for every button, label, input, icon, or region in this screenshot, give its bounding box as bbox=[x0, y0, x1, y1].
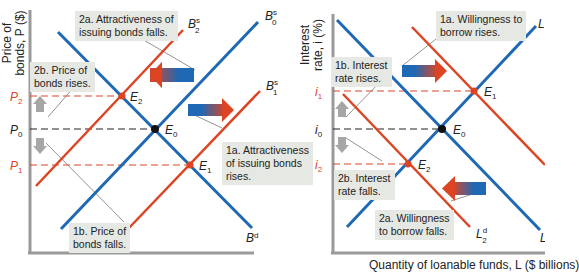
b1s-label: Bs1 bbox=[266, 78, 278, 97]
e0-label: E0 bbox=[165, 123, 178, 139]
l2d-demand-curve bbox=[343, 94, 470, 227]
callout-r1a-willingness-rises: 1a. Willingness to borrow rises. bbox=[436, 11, 526, 41]
right-y-axis-title: Interest rate, i (%) bbox=[299, 10, 325, 80]
price-up-arrow bbox=[33, 96, 47, 112]
p0-label: P0 bbox=[10, 123, 23, 139]
ls-label: L bbox=[538, 17, 545, 31]
callout-1a-attractiveness-rises: 1a. Attractiveness of issuing bonds rise… bbox=[222, 142, 313, 185]
e2-label-r: E2 bbox=[418, 158, 431, 174]
leader-1b bbox=[46, 143, 124, 222]
callout-1b-price-falls: 1b. Price of bonds falls. bbox=[69, 223, 130, 253]
callout-r2a-willingness-falls: 2a. Willingness to borrow falls. bbox=[375, 210, 454, 240]
callout-r1b-interest-rises: 1b. Interest rate rises. bbox=[331, 57, 392, 87]
i2-label: i2 bbox=[315, 158, 323, 174]
e2-point-r bbox=[405, 161, 412, 168]
e0-point-r bbox=[438, 125, 446, 133]
rate-down-arrow bbox=[335, 137, 349, 153]
shift-right-arrow-r bbox=[402, 59, 447, 83]
rate-up-arrow bbox=[335, 101, 349, 117]
i0-label: i0 bbox=[315, 123, 323, 139]
e1-point bbox=[187, 162, 194, 169]
shift-right-arrow bbox=[188, 98, 234, 122]
left-y-axis-title: Price of bonds, P ($) bbox=[1, 3, 27, 83]
e0-label-r: E0 bbox=[453, 123, 466, 139]
leader-r2b bbox=[346, 138, 382, 161]
bd-label: Bd bbox=[246, 231, 258, 245]
p2-label: P2 bbox=[10, 90, 23, 106]
left-bond-market-graph bbox=[28, 10, 260, 254]
leader-r1a bbox=[402, 39, 436, 66]
b0s-label: Bs0 bbox=[265, 8, 277, 27]
callout-2b-price-rises: 2b. Price of bonds rises. bbox=[30, 62, 95, 92]
b2s-supply-curve bbox=[36, 30, 183, 186]
price-down-arrow bbox=[33, 138, 47, 154]
p1-label: P1 bbox=[10, 159, 23, 175]
shift-left-arrow-r bbox=[442, 176, 486, 201]
callout-2a-attractiveness-falls: 2a. Attractiveness of issuing bonds fall… bbox=[75, 11, 178, 41]
l1d-demand-curve bbox=[412, 27, 545, 165]
e1-point-r bbox=[471, 88, 478, 95]
l2d-label: Ld2 bbox=[476, 226, 487, 245]
e1-label-r: E1 bbox=[484, 85, 497, 101]
e2-label: E2 bbox=[130, 90, 143, 106]
ld-label: L bbox=[540, 231, 545, 245]
i1-label: i1 bbox=[315, 85, 323, 101]
e0-point bbox=[151, 125, 159, 133]
e2-point bbox=[119, 93, 126, 100]
e1-label: E1 bbox=[199, 159, 212, 175]
callout-r2b-interest-falls: 2b. Interest rate falls. bbox=[334, 170, 395, 200]
right-x-axis-title: Quantity of loanable funds, L ($ billion… bbox=[369, 258, 579, 272]
b2s-label: Bs2 bbox=[188, 16, 200, 35]
